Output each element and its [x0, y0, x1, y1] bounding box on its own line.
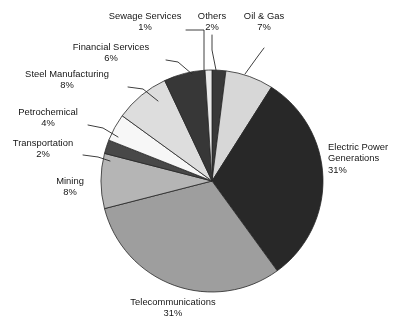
label-steel-manufacturing: Steel Manufacturing 8%	[8, 68, 126, 91]
label-transportation-value: 2%	[2, 148, 84, 159]
pie-slices	[101, 70, 323, 292]
label-telecommunications-name: Telecommunications	[108, 296, 238, 307]
label-oil-and-gas-name: Oil & Gas	[228, 10, 300, 21]
label-electric-power-name-line2: Generations	[328, 152, 398, 163]
label-petrochemical-name: Petrochemical	[8, 106, 88, 117]
pie-chart-figure: Sewage Services 1% Others 2% Oil & Gas 7…	[0, 0, 398, 328]
label-steel-manufacturing-name: Steel Manufacturing	[8, 68, 126, 79]
label-petrochemical-value: 4%	[8, 117, 88, 128]
leader-line-sewage-services	[186, 30, 204, 70]
label-financial-services-value: 6%	[56, 52, 166, 63]
label-financial-services-name: Financial Services	[56, 41, 166, 52]
label-petrochemical: Petrochemical 4%	[8, 106, 88, 129]
label-financial-services: Financial Services 6%	[56, 41, 166, 64]
label-mining-value: 8%	[40, 186, 100, 197]
label-oil-and-gas: Oil & Gas 7%	[228, 10, 300, 33]
leader-line-oil-and-gas	[245, 48, 264, 74]
label-mining: Mining 8%	[40, 175, 100, 198]
label-electric-power-value: 31%	[328, 164, 398, 175]
label-telecommunications: Telecommunications 31%	[108, 296, 238, 319]
leader-line-others	[212, 35, 216, 70]
label-steel-manufacturing-value: 8%	[8, 79, 126, 90]
label-transportation: Transportation 2%	[2, 137, 84, 160]
label-mining-name: Mining	[40, 175, 100, 186]
label-oil-and-gas-value: 7%	[228, 21, 300, 32]
label-electric-power-name-line1: Electric Power	[328, 141, 398, 152]
label-electric-power-generations: Electric Power Generations 31%	[328, 141, 398, 175]
label-transportation-name: Transportation	[2, 137, 84, 148]
label-telecommunications-value: 31%	[108, 307, 238, 318]
leader-line-financial-services	[166, 60, 192, 74]
